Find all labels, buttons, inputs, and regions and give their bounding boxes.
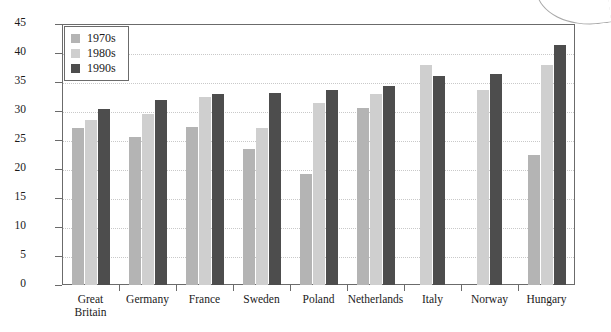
bar-1990s bbox=[326, 90, 338, 285]
y-axis-tick-label: 25 bbox=[0, 132, 26, 144]
bar-1990s bbox=[269, 93, 281, 285]
bar-1970s bbox=[186, 127, 198, 285]
bar-1970s bbox=[357, 108, 369, 285]
bar-group bbox=[528, 24, 566, 285]
x-axis-tick-mark bbox=[461, 285, 462, 291]
y-axis-tick-mark bbox=[55, 227, 62, 228]
y-axis-tick-label: 0 bbox=[0, 277, 26, 289]
x-axis-tick-mark bbox=[119, 285, 120, 291]
y-axis-tick-label: 10 bbox=[0, 219, 26, 231]
bar-1980s bbox=[199, 97, 211, 285]
y-axis-tick-label: 20 bbox=[0, 161, 26, 173]
y-axis-tick-mark bbox=[55, 82, 62, 83]
y-axis-tick-mark bbox=[55, 169, 62, 170]
bar-1980s bbox=[420, 65, 432, 285]
x-axis-tick-mark bbox=[290, 285, 291, 291]
legend-item-1970s: 1970s bbox=[71, 31, 116, 46]
y-axis-tick-mark bbox=[55, 285, 62, 286]
legend-label-1980s: 1980s bbox=[87, 46, 116, 61]
bar-group bbox=[243, 24, 281, 285]
legend-item-1990s: 1990s bbox=[71, 61, 116, 76]
bar-1980s bbox=[142, 114, 154, 285]
y-axis-tick-mark bbox=[55, 24, 62, 25]
x-axis-label: Hungary bbox=[502, 293, 592, 306]
bar-1970s bbox=[72, 128, 84, 285]
x-axis-tick-mark bbox=[347, 285, 348, 291]
bar-group bbox=[129, 24, 167, 285]
bar-1970s bbox=[243, 149, 255, 285]
bar-1990s bbox=[554, 45, 566, 285]
x-axis-tick-mark bbox=[518, 285, 519, 291]
y-axis-tick-mark bbox=[55, 111, 62, 112]
y-axis-tick-label: 45 bbox=[0, 16, 26, 28]
bar-1980s bbox=[541, 65, 553, 285]
bar-1980s bbox=[370, 94, 382, 285]
legend-label-1990s: 1990s bbox=[87, 61, 116, 76]
bar-1990s bbox=[433, 76, 445, 285]
legend-swatch-icon-1980s bbox=[71, 49, 80, 58]
bar-1990s bbox=[490, 74, 502, 285]
y-axis-tick-mark bbox=[55, 198, 62, 199]
x-axis-tick-mark bbox=[404, 285, 405, 291]
bar-1990s bbox=[155, 100, 167, 285]
x-axis-tick-mark bbox=[176, 285, 177, 291]
bar-1970s bbox=[528, 155, 540, 286]
bar-1980s bbox=[477, 90, 489, 285]
bar-1970s bbox=[300, 174, 312, 285]
bar-group bbox=[477, 24, 502, 285]
legend-label-1970s: 1970s bbox=[87, 31, 116, 46]
bar-group bbox=[357, 24, 395, 285]
legend-swatch-icon-1970s bbox=[71, 34, 80, 43]
y-axis-tick-label: 5 bbox=[0, 248, 26, 260]
bar-1990s bbox=[383, 86, 395, 285]
legend-item-1980s: 1980s bbox=[71, 46, 116, 61]
bar-group bbox=[420, 24, 445, 285]
y-axis-tick-label: 15 bbox=[0, 190, 26, 202]
legend-swatch-icon-1990s bbox=[71, 64, 80, 73]
bar-1980s bbox=[313, 103, 325, 285]
chart-legend: 1970s 1980s 1990s bbox=[64, 26, 129, 81]
y-axis-tick-mark bbox=[55, 53, 62, 54]
bar-group bbox=[300, 24, 338, 285]
x-axis-tick-mark bbox=[233, 285, 234, 291]
y-axis-tick-label: 40 bbox=[0, 45, 26, 57]
y-axis-tick-label: 35 bbox=[0, 74, 26, 86]
bar-1980s bbox=[85, 120, 97, 285]
bar-1990s bbox=[212, 94, 224, 285]
bar-1970s bbox=[129, 137, 141, 285]
y-axis-tick-label: 30 bbox=[0, 103, 26, 115]
bar-1990s bbox=[98, 109, 110, 285]
bar-group bbox=[186, 24, 224, 285]
bar-group-container bbox=[62, 24, 575, 285]
bar-1980s bbox=[256, 128, 268, 285]
y-axis-tick-mark bbox=[55, 256, 62, 257]
y-axis-tick-mark bbox=[55, 140, 62, 141]
